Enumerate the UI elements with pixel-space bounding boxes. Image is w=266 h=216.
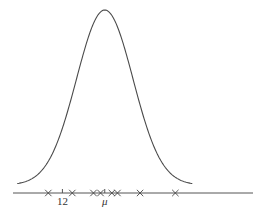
tick-label-mu: μ: [101, 195, 108, 207]
bell-curve: [17, 10, 192, 184]
tick-label-12: 12: [57, 195, 68, 207]
normal-distribution-diagram: 12 μ: [0, 0, 266, 216]
